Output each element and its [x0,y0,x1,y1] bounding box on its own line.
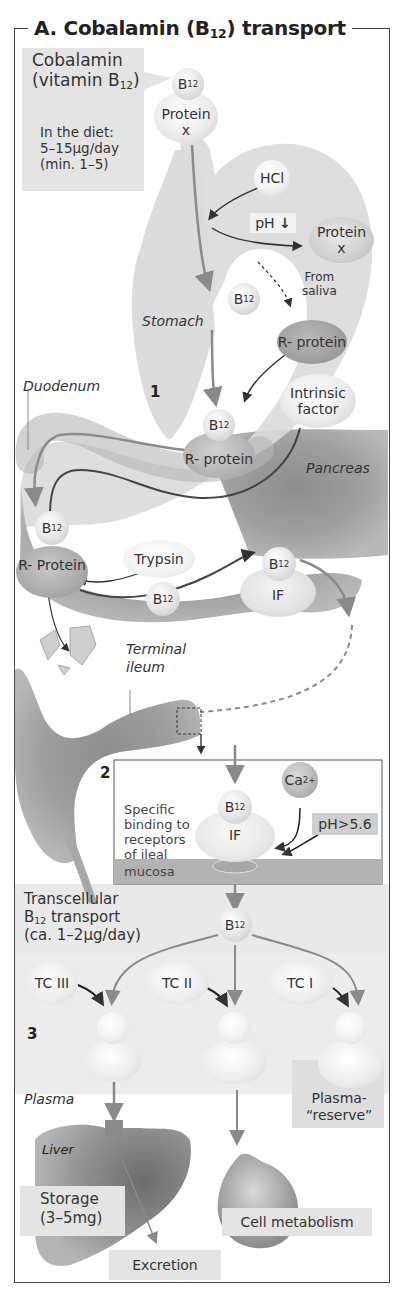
calcium-ion: Ca2+ [282,762,318,798]
diagram-title: A. Cobalamin (B12) transport [34,16,346,40]
tc-iii-b12-complex [85,1040,141,1082]
stomach-label: Stomach [142,313,204,329]
protein-x-released: Proteinx [309,217,374,263]
storage-label: Storage(3–5mg) [40,1190,102,1228]
specific-binding-label: Specific binding to receptors of ileal [124,802,190,862]
tc-i-b12-complex [318,1040,384,1088]
transcellular-transport-label: Transcellular B12 transport (ca. 1–2µg/d… [24,890,141,944]
tc-ii-b12-complex [201,1040,267,1084]
tc-iii-protein: TC III [26,962,78,1004]
mucosa-label: mucosa [124,864,175,879]
tc-iii-b12-ball [97,1012,129,1044]
b12-r-protein-duodenum-complex: R- Protein [16,546,88,598]
cobalamin-label: Cobalamin (vitamin B12) [32,50,140,90]
b12-free-molecule: B12 [228,283,260,315]
step-1-number: 1 [150,383,160,401]
liver-label: Liver [42,1142,74,1157]
ph-threshold-label: pH>5.6 [312,813,378,835]
step-3-number: 3 [27,1025,37,1043]
diet-intake-label: In the diet: 5–15µg/day (min. 1–5) [40,124,119,172]
duodenum-label: Duodenum [23,378,100,394]
plasma-label: Plasma [24,1091,74,1107]
tc-i-protein: TC I [267,962,333,1004]
from-saliva-label: Fromsaliva [302,270,337,298]
intrinsic-factor-molecule: Intrinsicfactor [280,374,356,428]
hcl-molecule: HCl [254,160,290,196]
title-container: A. Cobalamin (B12) transport [28,12,352,44]
b12-molecule: B12 [172,68,204,100]
r-protein-molecule: R- protein [277,320,347,364]
step-2-number: 2 [100,764,110,782]
b12-complex-molecule: B12 [203,409,235,441]
terminal-ileum-label: Terminalileum [126,640,186,676]
excretion-label: Excretion [109,1250,221,1280]
tc-i-b12-ball [335,1012,367,1044]
b12-released-molecule: B12 [146,582,180,616]
b12-duodenum-molecule: B12 [35,511,69,545]
plasma-reserve-label: Plasma-“reserve” [306,1090,372,1124]
pancreas-label: Pancreas [306,460,370,476]
b12-if-molecule: B12 [262,547,296,581]
trypsin-enzyme: Trypsin [123,540,195,578]
ph-decrease-label: pH ↓ [250,213,296,233]
tc-ii-protein: TC II [145,962,209,1004]
tc-ii-b12-ball [218,1012,250,1044]
b12-ileum-molecule: B12 [218,790,252,824]
b12-transcellular-molecule: B12 [218,908,252,942]
cell-metabolism-label: Cell metabolism [222,1208,372,1236]
